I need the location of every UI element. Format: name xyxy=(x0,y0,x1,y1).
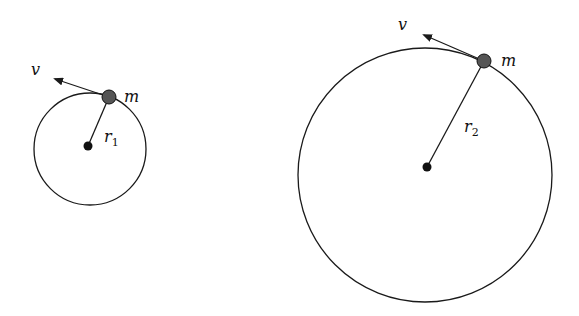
orbit-2-radius-label: r2 xyxy=(464,117,479,139)
orbit-2-center-dot xyxy=(423,163,432,172)
orbit-2-mass xyxy=(477,54,491,68)
orbit-2-velocity-label: v xyxy=(398,15,407,34)
orbit-1-group: v m r1 xyxy=(31,60,146,205)
orbit-1-velocity-arrow xyxy=(55,79,109,97)
orbit-diagram: v m r1 v m r2 xyxy=(0,0,579,316)
orbit-1-velocity-label: v xyxy=(31,60,40,79)
orbit-1-mass xyxy=(102,90,116,104)
orbit-2-group: v m r2 xyxy=(298,15,552,302)
orbit-1-center-dot xyxy=(84,142,93,151)
orbit-2-circle xyxy=(298,48,552,302)
orbit-2-radius-line xyxy=(427,61,484,167)
orbit-1-radius-label: r1 xyxy=(104,127,119,149)
orbit-1-mass-label: m xyxy=(124,87,139,106)
orbit-2-mass-label: m xyxy=(501,51,516,70)
